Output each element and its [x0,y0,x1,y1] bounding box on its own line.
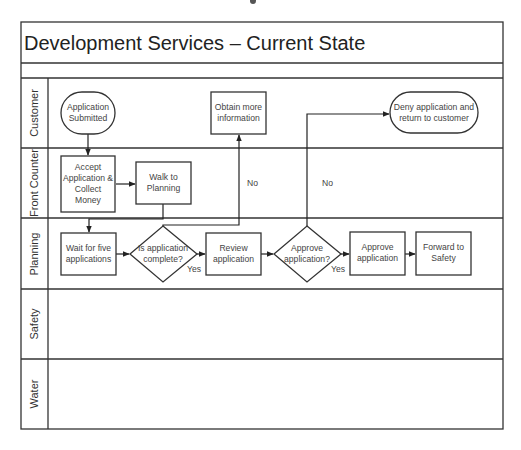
svg-text:Deny application and: Deny application and [394,102,474,112]
svg-text:Application: Application [67,102,109,112]
diagram-frame [21,22,503,429]
svg-text:Planning: Planning [147,183,181,193]
edge-label-complete-yes: Yes [187,264,201,274]
svg-text:Walk to: Walk to [149,172,178,182]
svg-text:Review: Review [219,243,248,253]
node-walk-to-planning: Walk to Planning [136,162,191,204]
svg-text:Money: Money [75,195,101,205]
svg-text:Obtain more: Obtain more [215,102,263,112]
svg-text:Is application: Is application [138,243,188,253]
svg-text:application: application [357,253,398,263]
edge-approve-no [307,114,389,226]
lane-label-water: Water [28,379,40,408]
svg-text:Forward to: Forward to [423,242,464,252]
svg-text:Wait for five: Wait for five [66,243,111,253]
edge-label-complete-no: No [247,178,258,188]
svg-text:Accept: Accept [75,162,102,172]
lane-label-customer: Customer [28,89,40,137]
node-accept-application: Accept Application & Collect Money [61,156,115,212]
svg-text:Safety: Safety [431,253,456,263]
svg-text:applications: applications [66,254,111,264]
node-forward-to-safety: Forward to Safety [416,232,471,275]
svg-text:Submitted: Submitted [69,113,108,123]
node-wait-for-five: Wait for five applications [61,233,116,275]
node-deny-application: Deny application and return to customer [390,92,478,133]
diagram-title: Development Services – Current State [24,32,365,54]
swimlane-diagram: Development Services – Current State Cus… [0,0,521,450]
svg-text:complete?: complete? [143,254,183,264]
svg-text:application: application [213,254,254,264]
edge-label-approve-yes: Yes [331,264,345,274]
svg-text:information: information [217,113,260,123]
svg-text:Application &: Application & [63,173,113,183]
edge-label-approve-no: No [322,178,333,188]
svg-text:Approve: Approve [361,242,393,252]
svg-text:Approve: Approve [291,243,323,253]
svg-text:application?: application? [284,254,330,264]
svg-text:return to customer: return to customer [399,113,469,123]
lane-label-front-counter: Front Counter [28,149,40,217]
node-approve-application: Approve application [350,232,405,275]
node-application-submitted: Application Submitted [61,92,115,134]
node-obtain-more-information: Obtain more information [211,92,266,134]
lane-label-safety: Safety [28,308,40,340]
lane-label-planning: Planning [28,233,40,276]
svg-text:Collect: Collect [75,184,102,194]
node-review-application: Review application [206,233,261,275]
